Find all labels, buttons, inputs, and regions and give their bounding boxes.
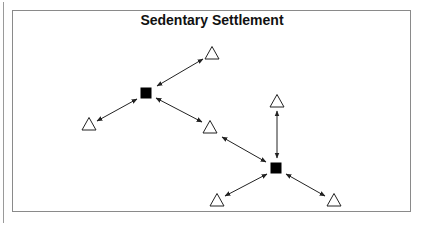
site-top-triangle-icon	[205, 47, 219, 60]
site-left-triangle-icon	[82, 118, 96, 131]
arrow-site-middle-settlement-2	[222, 137, 266, 162]
arrow-settlement-1-site-middle	[156, 98, 202, 122]
site-upper-right-triangle-icon	[270, 95, 284, 108]
settlement-2-square-icon	[271, 163, 282, 174]
settlement-1-square-icon	[141, 88, 152, 99]
arrow-settlement-2-site-bottom-left	[225, 174, 267, 196]
site-bottom-left-triangle-icon	[210, 194, 224, 207]
arrow-settlement-1-site-top	[157, 59, 203, 86]
nodes-group	[82, 47, 341, 207]
settlement-network-diagram	[0, 0, 421, 225]
arrow-settlement-1-site-left	[97, 99, 137, 121]
arrow-settlement-2-site-bottom-right	[286, 174, 325, 196]
site-bottom-right-triangle-icon	[327, 194, 341, 207]
site-middle-triangle-icon	[203, 121, 217, 134]
